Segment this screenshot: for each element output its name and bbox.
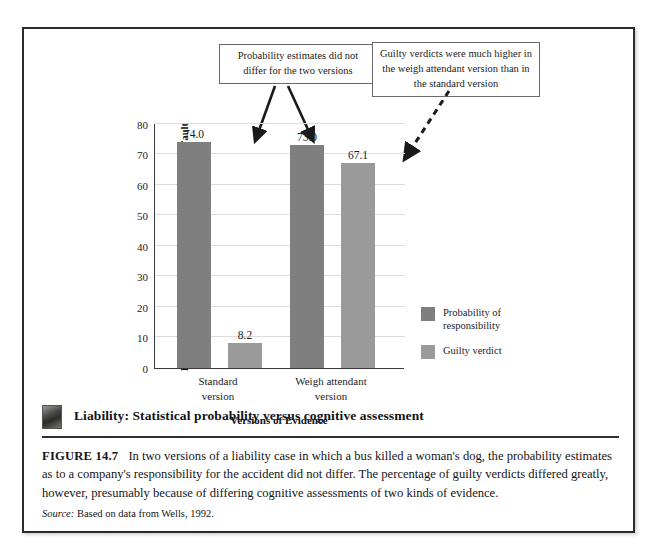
source-text: Based on data from Wells, 1992. [77, 508, 214, 519]
xtick-weigh-line1: Weigh attendant [271, 374, 391, 389]
bar-standard-probability [177, 142, 211, 368]
ytick-60: 60 [108, 180, 148, 192]
ytick-70: 70 [108, 149, 148, 161]
liability-heading: Liability: Statistical probability versu… [74, 408, 424, 424]
plot: Probability Estimates That Blue Bus Comp… [154, 124, 404, 369]
xtick-standard-line1: Standard [158, 374, 278, 389]
ytick-50: 50 [108, 210, 148, 222]
chart-area: Probability estimates did not differ for… [24, 29, 637, 404]
ytick-30: 30 [108, 271, 148, 283]
figure-number: FIGURE 14.7 [42, 449, 118, 463]
bar-weigh-guilty [341, 163, 375, 368]
ytick-40: 40 [108, 241, 148, 253]
legend-swatch-guilty [421, 345, 435, 359]
legend-swatch-probability [421, 307, 435, 321]
bar-value-67-1: 67.1 [348, 149, 368, 161]
chart-legend: Probability of responsibility Guilty ver… [421, 306, 551, 370]
xtick-weigh-attendant-version: Weigh attendant version [271, 374, 391, 404]
gridline-80 [155, 123, 405, 124]
ytick-0: 0 [108, 363, 148, 375]
callout-probability-estimates: Probability estimates did not differ for… [219, 44, 377, 84]
bar-value-8-2: 8.2 [238, 329, 252, 341]
figure-caption-text: In two versions of a liability case in w… [42, 449, 612, 500]
ytick-80: 80 [108, 119, 148, 131]
callout-guilty-verdicts: Guilty verdicts were much higher in the … [372, 42, 540, 97]
xtick-weigh-line2: version [271, 389, 391, 404]
xtick-standard-version: Standard version [158, 374, 278, 404]
caption-divider [42, 436, 619, 438]
legend-label-guilty: Guilty verdict [443, 344, 502, 357]
legend-item-guilty: Guilty verdict [421, 344, 551, 359]
plot-area: 74.0 8.2 73.0 67.1 [154, 124, 404, 369]
bar-standard-guilty [228, 343, 262, 368]
xtick-standard-line2: version [158, 389, 278, 404]
legend-item-probability: Probability of responsibility [421, 306, 551, 333]
arrow-right-to-bar4 [408, 91, 449, 154]
source-label: Source: [42, 508, 74, 519]
bar-weigh-probability [290, 145, 324, 368]
bar-value-74: 74.0 [184, 128, 204, 140]
bar-value-73: 73.0 [297, 131, 317, 143]
legend-label-probability: Probability of responsibility [443, 306, 551, 333]
caption-block: Liability: Statistical probability versu… [24, 404, 637, 519]
figure-caption: FIGURE 14.7In two versions of a liabilit… [42, 447, 613, 502]
ytick-20: 20 [108, 302, 148, 314]
source-line: Source: Based on data from Wells, 1992. [42, 508, 613, 519]
figure-frame: Probability estimates did not differ for… [22, 27, 635, 533]
photo-thumbnail-icon [42, 405, 62, 429]
ytick-10: 10 [108, 332, 148, 344]
liability-heading-row: Liability: Statistical probability versu… [42, 404, 619, 436]
